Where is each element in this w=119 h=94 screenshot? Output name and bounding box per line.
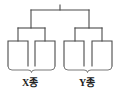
leaf-box-y2: [92, 41, 112, 66]
brace-group-x: [8, 67, 55, 73]
group-label-y: Y종: [60, 77, 114, 88]
group-label-x: X종: [4, 77, 56, 88]
leaf-box-x1: [8, 41, 28, 66]
leaf-box-x2: [35, 41, 55, 66]
leaf-box-y1: [64, 41, 84, 66]
tree-diagram: X종 Y종: [0, 0, 119, 94]
brace-group-y: [64, 67, 112, 73]
